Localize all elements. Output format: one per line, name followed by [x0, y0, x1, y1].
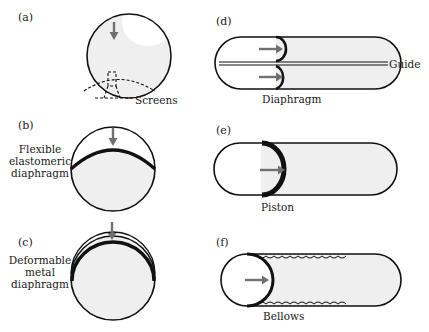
panel-f-cylinder-bellows — [221, 254, 401, 306]
diaphragm-label: Diaphragm — [262, 93, 321, 105]
panel-tag-f: (f) — [216, 236, 229, 249]
guide-label: Guide — [389, 58, 420, 70]
panel-tag-d: (d) — [216, 15, 232, 28]
elastomeric-diaphragm-label: Flexible elastomeric diaphragm — [8, 143, 72, 179]
panel-e-cylinder-piston — [214, 143, 397, 195]
bellows-label: Bellows — [263, 310, 304, 322]
panel-c-sphere-metal — [71, 222, 155, 320]
panel-tag-c: (c) — [18, 236, 33, 249]
piston-label: Piston — [261, 201, 294, 213]
panel-tag-e: (e) — [216, 124, 231, 137]
screens-label: Screens — [135, 94, 178, 106]
panel-b-sphere-elastomeric — [71, 127, 155, 211]
panel-d-cylinder-diaphragm — [215, 37, 401, 89]
metal-diaphragm-label: Deformable metal diaphragm — [8, 254, 72, 290]
panel-tag-a: (a) — [18, 11, 33, 24]
panel-tag-b: (b) — [18, 119, 34, 132]
panel-a-sphere-screens — [84, 0, 174, 98]
